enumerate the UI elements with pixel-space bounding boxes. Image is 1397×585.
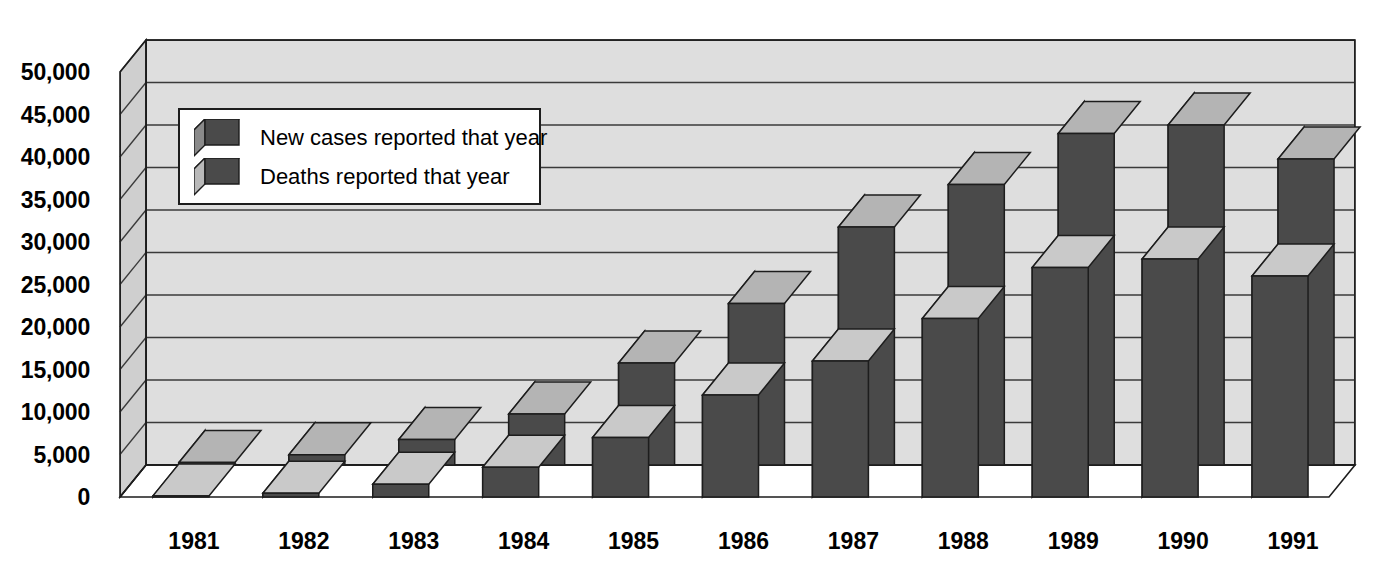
x-axis-tick-label: 1987	[793, 528, 913, 555]
x-axis-tick-label: 1986	[684, 528, 804, 555]
x-axis-tick-label: 1988	[903, 528, 1023, 555]
x-axis: 1981198219831984198519861987198819891990…	[0, 0, 1397, 585]
chart-legend: New cases reported that year Deaths repo…	[178, 108, 541, 205]
legend-item-deaths: Deaths reported that year	[194, 157, 509, 197]
cube-icon	[194, 158, 240, 196]
x-axis-tick-label: 1981	[134, 528, 254, 555]
legend-label-new-cases: New cases reported that year	[260, 125, 547, 151]
x-axis-tick-label: 1983	[354, 528, 474, 555]
x-axis-tick-label: 1982	[244, 528, 364, 555]
x-axis-tick-label: 1985	[574, 528, 694, 555]
cube-icon	[194, 119, 240, 157]
x-axis-tick-label: 1990	[1123, 528, 1243, 555]
chart-root: 50,00045,00040,00035,00030,00025,00020,0…	[0, 0, 1397, 585]
legend-label-deaths: Deaths reported that year	[260, 164, 509, 190]
x-axis-tick-label: 1989	[1013, 528, 1133, 555]
x-axis-tick-label: 1984	[464, 528, 584, 555]
legend-item-new-cases: New cases reported that year	[194, 118, 547, 158]
x-axis-tick-label: 1991	[1233, 528, 1353, 555]
